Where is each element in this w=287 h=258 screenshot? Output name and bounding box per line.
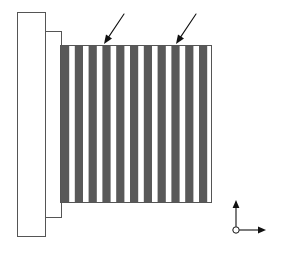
fin-stripes xyxy=(61,46,207,202)
fin-stripe-10 xyxy=(185,46,193,202)
leader-arrow-right-head xyxy=(176,35,184,44)
fin-stripe-11 xyxy=(199,46,207,202)
axis-vertical-arrowhead xyxy=(233,200,240,208)
fin-stripe-6 xyxy=(130,46,138,202)
fin-stripe-3 xyxy=(89,46,97,202)
leader-annotations xyxy=(104,14,196,44)
fin-stripe-5 xyxy=(116,46,124,202)
fin-stripe-2 xyxy=(75,46,83,202)
leader-arrow-right-shaft xyxy=(180,14,196,38)
axis-horizontal-arrowhead xyxy=(258,227,266,234)
diagram-svg: Finned tube bundle assembly - side eleva… xyxy=(0,0,287,258)
fin-stack-block xyxy=(60,45,212,203)
leader-arrow-left-head xyxy=(104,35,112,44)
inner-spacer-plate xyxy=(46,32,62,218)
fin-stripe-9 xyxy=(171,46,179,202)
flange-assembly xyxy=(18,13,62,237)
fin-stripe-4 xyxy=(102,46,110,202)
outer-flange-plate xyxy=(18,13,46,237)
axis-origin-circle xyxy=(233,227,239,233)
fin-stripe-1 xyxy=(61,46,69,202)
coordinate-axis-marker xyxy=(233,200,266,233)
fin-stripe-7 xyxy=(144,46,152,202)
technical-diagram-canvas: Finned tube bundle assembly - side eleva… xyxy=(0,0,287,258)
leader-arrow-left-shaft xyxy=(108,14,124,38)
fin-stripe-8 xyxy=(158,46,166,202)
